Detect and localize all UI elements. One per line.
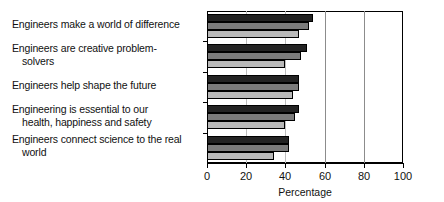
bar bbox=[207, 14, 313, 22]
category-label-line: world bbox=[22, 146, 200, 159]
category-label: Engineers connect science to the realwor… bbox=[0, 133, 200, 158]
y-axis-group-tick bbox=[203, 133, 208, 134]
x-axis-tick-label: 80 bbox=[344, 170, 384, 182]
bar bbox=[207, 22, 309, 30]
bar bbox=[207, 144, 289, 152]
category-label-line: Engineers connect science to the real bbox=[22, 133, 200, 146]
y-axis-group-tick bbox=[203, 72, 208, 73]
bar bbox=[207, 75, 299, 83]
bar bbox=[207, 44, 307, 52]
category-label: Engineering is essential to ourhealth, h… bbox=[0, 103, 200, 128]
x-axis-tick bbox=[207, 163, 208, 168]
category-label: Engineers make a world of difference bbox=[0, 18, 200, 31]
category-label: Engineers are creative problem-solvers bbox=[0, 42, 200, 67]
category-label-line: solvers bbox=[22, 55, 200, 68]
category-label-column: Engineers make a world of differenceEngi… bbox=[0, 10, 203, 162]
x-axis-tick bbox=[364, 163, 365, 168]
x-axis-line bbox=[207, 163, 403, 164]
category-label-line: health, happiness and safety bbox=[22, 116, 200, 129]
bar bbox=[207, 60, 285, 68]
category-label-line: Engineering is essential to our bbox=[22, 103, 200, 116]
bar bbox=[207, 91, 293, 99]
x-axis-tick-label: 60 bbox=[305, 170, 345, 182]
bar bbox=[207, 152, 274, 160]
x-axis-tick-label: 0 bbox=[187, 170, 227, 182]
bar bbox=[207, 113, 295, 121]
bar-chart: Engineers make a world of differenceEngi… bbox=[0, 0, 444, 202]
gridline-60 bbox=[325, 11, 326, 163]
category-label-line: Engineers make a world of difference bbox=[22, 18, 200, 31]
x-axis-tick bbox=[285, 163, 286, 168]
plot-area bbox=[207, 11, 403, 163]
bar bbox=[207, 105, 299, 113]
y-axis-group-tick bbox=[203, 102, 208, 103]
bar bbox=[207, 83, 299, 91]
category-label-line: Engineers help shape the future bbox=[22, 79, 200, 92]
bar bbox=[207, 30, 299, 38]
x-axis-title: Percentage bbox=[207, 186, 403, 198]
bar bbox=[207, 52, 301, 60]
gridline-80 bbox=[364, 11, 365, 163]
category-label: Engineers help shape the future bbox=[0, 79, 200, 92]
x-axis-tick bbox=[246, 163, 247, 168]
bar bbox=[207, 136, 289, 144]
bar bbox=[207, 121, 285, 129]
category-label-line: Engineers are creative problem- bbox=[22, 42, 200, 55]
x-axis-tick-label: 100 bbox=[383, 170, 423, 182]
x-axis-tick bbox=[403, 163, 404, 168]
y-axis-group-tick bbox=[203, 41, 208, 42]
x-axis-tick-label: 40 bbox=[265, 170, 305, 182]
x-axis-tick bbox=[325, 163, 326, 168]
x-axis-tick-label: 20 bbox=[226, 170, 266, 182]
